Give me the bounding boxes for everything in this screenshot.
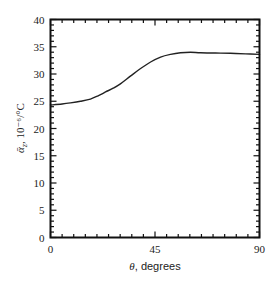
y-axis-label: ᾱz, 10⁻⁶/°C <box>14 103 29 153</box>
y-tick-label: 10 <box>34 177 46 189</box>
major-ticks <box>51 20 260 238</box>
x-tick-label: 45 <box>150 243 162 255</box>
minor-ticks <box>51 20 260 238</box>
y-tick-label: 40 <box>34 14 46 26</box>
y-tick-labels: 0510152025303540 <box>34 14 46 244</box>
x-tick-label: 0 <box>48 243 54 255</box>
x-axis-label-text: , degrees <box>135 260 181 272</box>
chart: 0510152025303540 04590 θ, degrees ᾱz, 10… <box>0 0 278 287</box>
y-tick-label: 0 <box>39 232 45 244</box>
y-tick-label: 35 <box>34 41 46 53</box>
y-axis-label-units: , 10⁻⁶/°C <box>14 103 26 144</box>
plot-frame <box>51 20 260 238</box>
chart-canvas: 0510152025303540 04590 θ, degrees ᾱz, 10… <box>0 0 278 287</box>
x-axis-label: θ, degrees <box>129 260 181 272</box>
y-tick-label: 15 <box>34 150 46 162</box>
series-line <box>51 52 260 105</box>
y-tick-label: 20 <box>34 123 46 135</box>
y-tick-label: 30 <box>34 68 46 80</box>
x-tick-label: 90 <box>254 243 266 255</box>
x-tick-labels: 04590 <box>48 243 266 255</box>
y-tick-label: 25 <box>34 95 46 107</box>
y-tick-label: 5 <box>39 204 45 216</box>
